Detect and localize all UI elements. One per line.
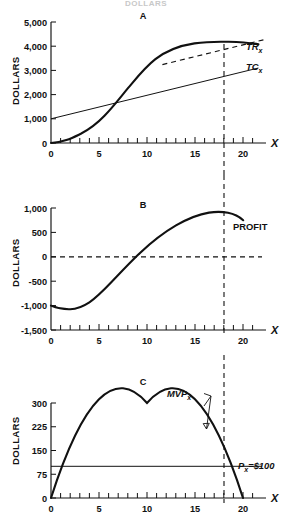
panel-b-xtick-5: 5 [96, 336, 101, 346]
panel-b-xtick-10: 10 [142, 336, 152, 346]
panel-a: A DOLLARS 0 1,000 2,000 3,000 4,000 5,00… [0, 0, 290, 175]
total-revenue-curve [51, 42, 258, 143]
panel-a-ytick-2000: 2,000 [24, 90, 47, 100]
mvp-label-text: MVP [167, 388, 188, 399]
mvp-arrowhead [203, 423, 209, 429]
panel-c-ytick-225: 225 [32, 422, 47, 432]
px-label-value: =$100 [248, 460, 275, 471]
panel-c-letter: C [140, 377, 147, 387]
panel-c-xtick-10: 10 [142, 504, 152, 514]
panel-c-y-axis-title: DOLLARS [10, 416, 21, 465]
panel-c-chart: C DOLLARS 0 75 150 225 300 [0, 355, 290, 520]
panel-a-y-ticks [51, 22, 56, 143]
input-price-label: Px=$100 [238, 460, 275, 473]
panel-b-x-axis-variable: X [270, 324, 279, 336]
panel-c-xtick-20: 20 [238, 504, 248, 514]
total-revenue-label: TRx [246, 41, 264, 54]
panel-b-ytick-500: 500 [32, 228, 47, 238]
panel-a-letter: A [140, 11, 147, 21]
panel-b-ytick-neg1500: -1,500 [21, 326, 47, 336]
panel-b-ytick-neg500: -500 [29, 277, 47, 287]
panel-a-ytick-0: 0 [42, 139, 47, 149]
profit-curve [51, 212, 243, 309]
tr-label-text: TR [246, 41, 259, 52]
economics-figure: DOLLARS A DOLLARS 0 1,000 2,000 3,000 4 [0, 0, 290, 520]
panel-c-ytick-0: 0 [42, 494, 47, 504]
tr-label-subscript: x [258, 47, 264, 54]
panel-a-x-axis-variable: X [270, 137, 279, 149]
panel-c-xtick-0: 0 [48, 504, 53, 514]
panel-b-y-axis-title: DOLLARS [10, 238, 21, 287]
panel-a-ytick-5000: 5,000 [24, 18, 47, 28]
mvp-label: MVPx [167, 388, 192, 401]
panel-b-ytick-0: 0 [42, 252, 47, 262]
panel-c: C DOLLARS 0 75 150 225 300 [0, 355, 290, 520]
panel-a-chart: A DOLLARS 0 1,000 2,000 3,000 4,000 5,00… [0, 0, 290, 175]
svg-text:MVPx: MVPx [167, 388, 192, 401]
tc-label-subscript: x [258, 67, 264, 74]
panel-c-xtick-15: 15 [190, 504, 200, 514]
panel-a-xtick-10: 10 [142, 149, 152, 159]
panel-b-xtick-0: 0 [48, 336, 53, 346]
svg-text:Px=$100: Px=$100 [238, 460, 275, 473]
panel-b: B DOLLARS 1,000 500 0 -500 -1,000 -1,500 [0, 175, 290, 355]
panel-b-ytick-neg1000: -1,000 [21, 301, 47, 311]
panel-a-y-axis-title: DOLLARS [10, 56, 21, 105]
profit-label: PROFIT [233, 221, 268, 232]
panel-a-ytick-4000: 4,000 [24, 42, 47, 52]
panel-c-ytick-300: 300 [32, 399, 47, 409]
panel-c-ytick-75: 75 [37, 470, 47, 480]
panel-a-ytick-1000: 1,000 [24, 114, 47, 124]
panel-b-chart: B DOLLARS 1,000 500 0 -500 -1,000 -1,500 [0, 175, 290, 355]
panel-b-y-ticks [51, 208, 56, 330]
tc-label-text: TC [246, 61, 259, 72]
svg-text:TRx: TRx [246, 41, 264, 54]
panel-c-xtick-5: 5 [96, 504, 101, 514]
panel-c-x-axis-variable: X [270, 492, 279, 504]
panel-b-letter: B [140, 200, 147, 210]
panel-a-xtick-15: 15 [190, 149, 200, 159]
panel-a-ytick-3000: 3,000 [24, 66, 47, 76]
panel-a-xtick-20: 20 [238, 149, 248, 159]
mvp-curve [51, 388, 243, 498]
panel-b-xtick-15: 15 [190, 336, 200, 346]
total-cost-curve [51, 68, 258, 119]
panel-a-xtick-5: 5 [96, 149, 101, 159]
panel-a-xtick-0: 0 [48, 149, 53, 159]
panel-b-ytick-1000: 1,000 [24, 204, 47, 214]
svg-text:TCx: TCx [246, 61, 264, 74]
panel-c-ytick-150: 150 [32, 446, 47, 456]
panel-b-xtick-20: 20 [238, 336, 248, 346]
total-cost-label: TCx [246, 61, 264, 74]
